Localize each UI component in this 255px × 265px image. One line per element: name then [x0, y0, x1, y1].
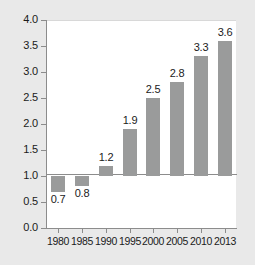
- baseline-1.0: [46, 174, 237, 175]
- x-axis-tick: [153, 229, 154, 233]
- bar: [123, 129, 137, 176]
- bar-value-label: 2.5: [136, 84, 170, 95]
- y-axis-tick: [41, 72, 46, 73]
- y-axis-label: 1.0: [4, 170, 38, 181]
- y-axis-tick: [41, 98, 46, 99]
- y-axis-label: 2.5: [4, 92, 38, 103]
- bar-value-label: 2.8: [160, 68, 194, 79]
- x-axis-tick: [82, 229, 83, 233]
- y-axis-tick: [41, 176, 46, 177]
- y-axis-tick: [41, 124, 46, 125]
- y-axis-tick: [41, 228, 46, 229]
- bar: [194, 56, 208, 176]
- bar: [170, 82, 184, 176]
- y-axis-label: 1.5: [4, 144, 38, 155]
- x-axis-label: 2013: [208, 236, 242, 247]
- y-axis-label: 0.0: [4, 222, 38, 233]
- y-axis-label: 4.0: [4, 14, 38, 25]
- bar-value-label: 1.9: [113, 115, 147, 126]
- bar: [146, 98, 160, 176]
- bar: [75, 176, 89, 186]
- bar-value-label: 1.2: [89, 152, 123, 163]
- bar: [218, 41, 232, 176]
- y-axis-label: 2.0: [4, 118, 38, 129]
- x-axis-line: [46, 228, 237, 229]
- y-axis-tick: [41, 20, 46, 21]
- x-axis-tick: [106, 229, 107, 233]
- bar-value-label: 0.8: [65, 188, 99, 199]
- bar: [99, 166, 113, 176]
- x-axis-tick: [177, 229, 178, 233]
- chart-figure: 0.00.51.01.52.02.53.03.54.0 198019851990…: [0, 0, 255, 265]
- y-axis-tick: [41, 46, 46, 47]
- x-axis-tick: [225, 229, 226, 233]
- y-axis-label: 3.5: [4, 40, 38, 51]
- bar-value-label: 3.6: [208, 27, 242, 38]
- y-axis-label: 3.0: [4, 66, 38, 77]
- bar-value-label: 3.3: [184, 42, 218, 53]
- bar: [51, 176, 65, 192]
- x-axis-tick: [130, 229, 131, 233]
- y-axis-tick: [41, 150, 46, 151]
- y-axis-label: 0.5: [4, 196, 38, 207]
- x-axis-tick: [201, 229, 202, 233]
- x-axis-tick: [58, 229, 59, 233]
